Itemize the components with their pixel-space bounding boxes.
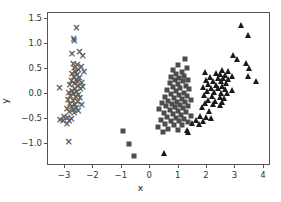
data-point-cluster-x xyxy=(70,63,77,70)
data-point-cluster-square xyxy=(166,98,171,103)
x-axis-tick-label: −1 xyxy=(115,170,128,180)
data-point-cluster-triangle xyxy=(203,114,209,120)
data-point-cluster-triangle xyxy=(206,108,212,114)
data-point-cluster-x xyxy=(64,88,71,95)
data-point-cluster-square xyxy=(185,94,190,99)
data-point-cluster-square xyxy=(181,90,186,95)
y-axis-tick xyxy=(44,68,47,69)
x-axis-tick xyxy=(92,165,93,168)
data-point-cluster-square xyxy=(186,103,191,108)
x-axis-label: x xyxy=(0,183,281,193)
data-point-cluster-x xyxy=(55,83,62,90)
x-axis-tick-label: 3 xyxy=(232,170,237,180)
scatter-plot-figure: x y −3−2−101234−1.0−0.50.00.51.01.5 xyxy=(0,0,281,202)
data-point-cluster-square xyxy=(126,141,131,146)
data-point-cluster-x xyxy=(70,79,77,86)
data-point-cluster-square xyxy=(180,97,185,102)
data-point-cluster-square xyxy=(172,122,177,127)
data-point-cluster-x xyxy=(74,81,81,88)
data-point-cluster-triangle xyxy=(215,85,221,91)
data-point-cluster-square xyxy=(178,86,183,91)
x-axis-tick xyxy=(121,165,122,168)
data-point-cluster-x xyxy=(68,49,75,56)
data-point-cluster-triangle xyxy=(202,69,208,75)
data-point-cluster-x xyxy=(76,84,83,91)
y-axis-tick-label: 0.0 xyxy=(17,88,42,98)
data-point-cluster-square xyxy=(172,96,177,101)
data-point-cluster-x xyxy=(70,37,77,44)
data-point-cluster-triangle xyxy=(229,87,235,93)
data-point-cluster-triangle xyxy=(207,74,213,80)
data-point-cluster-x xyxy=(76,94,83,101)
y-axis-tick-label: 0.5 xyxy=(17,63,42,73)
data-point-cluster-square xyxy=(176,109,181,114)
y-axis-tick-label: −1.0 xyxy=(17,138,42,148)
data-point-cluster-triangle xyxy=(217,71,223,77)
data-point-cluster-x xyxy=(71,67,78,74)
data-point-cluster-square xyxy=(180,79,185,84)
data-point-cluster-triangle xyxy=(218,90,224,96)
data-point-cluster-x xyxy=(77,100,84,107)
data-point-cluster-triangle xyxy=(185,129,191,135)
data-point-cluster-square xyxy=(180,123,185,128)
data-point-cluster-triangle xyxy=(204,88,210,94)
data-point-cluster-triangle xyxy=(246,65,252,71)
x-axis-tick xyxy=(149,165,150,168)
data-point-cluster-square xyxy=(170,84,175,89)
data-point-cluster-square xyxy=(170,111,175,116)
data-point-cluster-square xyxy=(174,71,179,76)
data-point-cluster-square xyxy=(159,117,164,122)
data-point-cluster-triangle xyxy=(229,73,235,79)
data-point-cluster-x xyxy=(74,106,81,113)
data-point-cluster-square xyxy=(187,87,192,92)
data-point-cluster-triangle xyxy=(211,89,217,95)
x-axis-tick-label: 2 xyxy=(203,170,208,180)
data-point-cluster-triangle xyxy=(253,78,259,84)
data-point-cluster-square xyxy=(175,63,180,68)
data-point-cluster-square xyxy=(167,80,172,85)
data-point-cluster-x xyxy=(74,65,81,72)
data-point-cluster-triangle xyxy=(213,82,219,88)
data-point-cluster-triangle xyxy=(210,78,216,84)
data-point-cluster-square xyxy=(166,126,171,131)
data-point-cluster-square xyxy=(161,110,166,115)
data-point-cluster-x xyxy=(70,108,77,115)
x-axis-tick-label: 0 xyxy=(147,170,152,180)
data-point-cluster-x xyxy=(71,93,78,100)
data-point-cluster-x xyxy=(67,114,74,121)
data-point-cluster-square xyxy=(188,97,193,102)
data-point-cluster-square xyxy=(160,129,165,134)
data-point-cluster-x xyxy=(56,116,63,123)
data-point-cluster-x xyxy=(69,105,76,112)
data-point-cluster-x xyxy=(73,77,80,84)
data-point-cluster-square xyxy=(168,118,173,123)
x-axis-tick xyxy=(178,165,179,168)
data-point-cluster-triangle xyxy=(189,120,195,126)
data-point-cluster-square xyxy=(181,105,186,110)
data-point-cluster-triangle xyxy=(215,75,221,81)
data-point-cluster-square xyxy=(182,116,187,121)
y-axis-tick xyxy=(44,93,47,94)
data-point-cluster-triangle xyxy=(234,56,240,62)
data-point-cluster-triangle xyxy=(245,32,251,38)
data-point-cluster-square xyxy=(182,73,187,78)
data-point-cluster-square xyxy=(177,76,182,81)
data-point-cluster-x xyxy=(73,97,80,104)
data-point-cluster-triangle xyxy=(220,75,226,81)
data-point-cluster-triangle xyxy=(225,76,231,82)
data-point-cluster-x xyxy=(72,75,79,82)
x-axis-tick-label: 1 xyxy=(175,170,180,180)
data-point-cluster-x xyxy=(79,83,86,90)
data-point-cluster-square xyxy=(160,101,165,106)
data-point-cluster-x xyxy=(66,80,73,87)
data-point-cluster-triangle xyxy=(225,68,231,74)
data-point-cluster-triangle xyxy=(213,70,219,76)
data-point-cluster-square xyxy=(189,113,194,118)
data-point-cluster-square xyxy=(169,75,174,80)
data-point-cluster-x xyxy=(63,104,70,111)
data-point-cluster-triangle xyxy=(221,95,227,101)
data-point-cluster-x xyxy=(75,47,82,54)
data-point-cluster-x xyxy=(65,107,72,114)
data-point-cluster-x xyxy=(67,76,74,83)
data-point-cluster-x xyxy=(80,68,87,75)
